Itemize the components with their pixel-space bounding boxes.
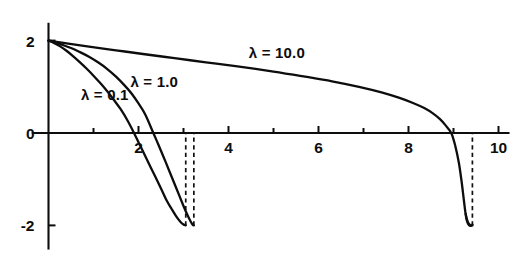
line-chart-canvas: 24681020-2λ = 0.1λ = 1.0λ = 10.0 (0, 0, 528, 265)
series-label-lambda-10.0: λ = 10.0 (249, 44, 305, 61)
series-label-lambda-0.1: λ = 0.1 (81, 86, 129, 103)
curve-bottom-curl-lambda-10 (466, 214, 473, 226)
x-tick-label: 6 (314, 139, 323, 156)
y-tick-label: 2 (26, 33, 35, 50)
y-tick-label: -2 (21, 217, 35, 234)
chart-figure: 24681020-2λ = 0.1λ = 1.0λ = 10.0 (0, 0, 528, 265)
x-tick-label: 10 (490, 139, 507, 156)
y-tick-label: 0 (26, 125, 35, 142)
x-tick-label: 4 (224, 139, 233, 156)
series-label-lambda-1.0: λ = 1.0 (130, 73, 178, 90)
x-tick-label: 8 (404, 139, 413, 156)
x-tick-label: 2 (134, 139, 143, 156)
